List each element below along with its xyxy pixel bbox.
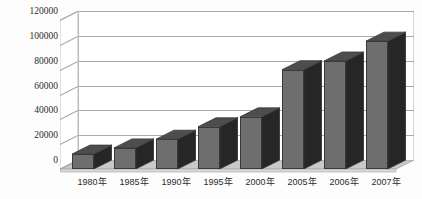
x-axis-tick-label: 1985年 bbox=[113, 176, 155, 188]
bar bbox=[198, 8, 238, 178]
bar-3d-faces bbox=[366, 8, 406, 178]
x-axis-tick-label: 1995年 bbox=[197, 176, 239, 188]
y-axis-tick-label: 20000 bbox=[34, 130, 58, 140]
x-axis-tick-label: 2000年 bbox=[239, 176, 281, 188]
bar-chart: 120000100000800006000040000200000 1980年1… bbox=[0, 0, 422, 199]
bar-3d-faces bbox=[324, 8, 364, 178]
bar-series bbox=[60, 8, 418, 178]
x-axis-tick-label: 2007年 bbox=[365, 176, 407, 188]
y-axis-tick-label: 100000 bbox=[30, 31, 59, 41]
bar-3d-faces bbox=[198, 8, 238, 178]
bar-side-face bbox=[346, 52, 364, 169]
x-axis-tick-label: 2006年 bbox=[323, 176, 365, 188]
bar-3d-faces bbox=[72, 8, 112, 178]
y-axis: 120000100000800006000040000200000 bbox=[2, 0, 58, 199]
bar-3d-faces bbox=[114, 8, 154, 178]
bar-3d-faces bbox=[156, 8, 196, 178]
bar bbox=[282, 8, 322, 178]
y-axis-tick-label: 40000 bbox=[34, 105, 58, 115]
bar bbox=[240, 8, 280, 178]
bar-side-face bbox=[304, 61, 322, 169]
y-axis-tick-label: 80000 bbox=[34, 56, 58, 66]
y-axis-tick-label: 0 bbox=[53, 155, 58, 165]
x-axis: 1980年1985年1990年1995年2000年2005年2006年2007年 bbox=[60, 176, 418, 194]
x-axis-tick-label: 2005年 bbox=[281, 176, 323, 188]
y-axis-tick-label: 120000 bbox=[30, 6, 59, 16]
y-axis-tick-label: 60000 bbox=[34, 81, 58, 91]
bar bbox=[366, 8, 406, 178]
bar-side-face bbox=[262, 108, 280, 169]
bar bbox=[114, 8, 154, 178]
bar bbox=[324, 8, 364, 178]
bar bbox=[156, 8, 196, 178]
bar-3d-faces bbox=[240, 8, 280, 178]
x-axis-tick-label: 1990年 bbox=[155, 176, 197, 188]
x-axis-tick-label: 1980年 bbox=[71, 176, 113, 188]
bar-3d-faces bbox=[282, 8, 322, 178]
plot-area bbox=[60, 8, 418, 178]
bar-side-face bbox=[388, 32, 406, 169]
bar bbox=[72, 8, 112, 178]
